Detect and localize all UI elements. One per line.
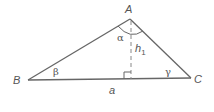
side-ab: [28, 19, 130, 80]
side-label-a: a: [109, 85, 115, 96]
triangle-diagram: [0, 0, 214, 112]
angle-label-alpha: α: [117, 33, 124, 43]
right-angle-marker: [124, 72, 131, 79]
vertex-label-c: C: [194, 74, 202, 85]
altitude-label-subscript: 1: [141, 48, 145, 57]
side-bc: [28, 78, 191, 80]
angle-label-beta: β: [53, 67, 59, 77]
angle-label-gamma: γ: [165, 67, 171, 77]
vertex-label-b: B: [13, 75, 20, 86]
vertex-label-a: A: [125, 4, 132, 15]
altitude-label: h1: [135, 43, 146, 57]
